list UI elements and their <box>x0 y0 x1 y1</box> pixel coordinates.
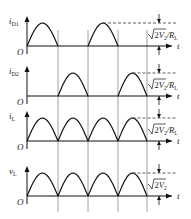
dimension-arrow-icon <box>157 19 161 23</box>
origin-label: O <box>17 47 24 57</box>
dimension-arrow-icon <box>157 96 161 100</box>
time-label: t <box>177 41 180 51</box>
time-label: t <box>177 91 180 101</box>
panel-3: iLOt2V2/RL <box>9 109 180 152</box>
waveform <box>58 73 147 96</box>
x-axis-arrow-icon <box>166 194 172 199</box>
dimension-arrow-icon <box>157 196 161 200</box>
x-axis-arrow-icon <box>166 94 172 99</box>
waveform-diagram: iD1Ot2V2/RLiD2Ot2V2/RLiLOt2V2/RLvLOt2V2 <box>0 0 191 219</box>
time-label: t <box>177 191 180 201</box>
dimension-arrow-icon <box>157 114 161 118</box>
x-axis-arrow-icon <box>166 44 172 49</box>
y-axis-label: vL <box>9 166 17 177</box>
x-axis-arrow-icon <box>166 139 172 144</box>
dimension-arrow-icon <box>157 46 161 50</box>
dimension-arrow-icon <box>157 69 161 73</box>
panel-4: vLOt2V2 <box>9 164 180 207</box>
y-axis-arrow-icon <box>25 166 30 172</box>
y-axis-label: iL <box>9 111 16 122</box>
y-axis-label: iD2 <box>9 66 19 77</box>
y-axis-arrow-icon <box>25 66 30 72</box>
y-axis-arrow-icon <box>25 16 30 22</box>
origin-label: O <box>17 97 24 107</box>
origin-label: O <box>17 142 24 152</box>
waveform <box>27 118 147 141</box>
dimension-arrow-icon <box>157 169 161 173</box>
peak-value-label: 2V2 <box>155 180 167 191</box>
y-axis-arrow-icon <box>25 111 30 117</box>
panel-1: iD1Ot2V2/RL <box>9 14 180 57</box>
peak-value-label: 2V2/RL <box>155 125 179 136</box>
peak-value-label: 2V2/RL <box>155 80 179 91</box>
y-axis-label: iD1 <box>9 16 19 27</box>
dimension-arrow-icon <box>157 141 161 145</box>
waveform <box>27 173 147 196</box>
panel-2: iD2Ot2V2/RL <box>9 64 180 107</box>
peak-value-label: 2V2/RL <box>155 30 179 41</box>
waveform <box>27 23 118 46</box>
time-label: t <box>177 136 180 146</box>
origin-label: O <box>17 197 24 207</box>
